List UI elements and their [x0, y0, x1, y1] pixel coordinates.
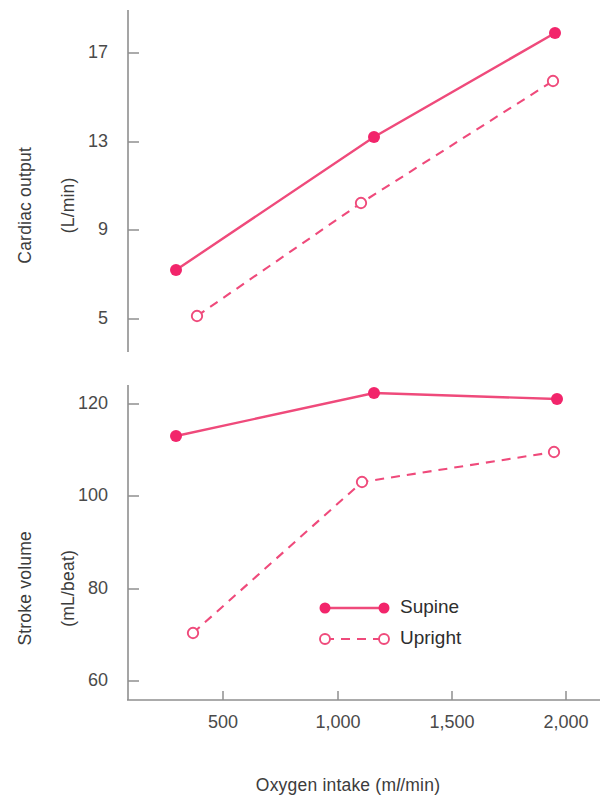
legend-item-upright-label: Upright [400, 627, 461, 649]
legend-supine-marker-right [379, 603, 390, 614]
legend-upright-glyph [320, 634, 389, 644]
bottom-chart-supine-point-1 [170, 430, 182, 442]
bottom-chart-upright-point-3 [549, 447, 559, 457]
legend-item-supine-label: Supine [400, 596, 459, 618]
bottom-chart-upright-point-2 [357, 477, 367, 487]
legend-upright-marker-right [379, 634, 389, 644]
bottom-chart-series-upright-line [193, 452, 554, 633]
bottom-chart-supine-point-2 [368, 387, 380, 399]
bottom-chart-upright-point-1 [188, 628, 198, 638]
legend-supine-glyph [320, 603, 390, 614]
bottom-chart-supine-point-3 [551, 393, 563, 405]
bottom-chart-series-supine-line [176, 393, 557, 436]
legend-upright-marker-left [320, 634, 330, 644]
legend-supine-marker-left [320, 603, 331, 614]
